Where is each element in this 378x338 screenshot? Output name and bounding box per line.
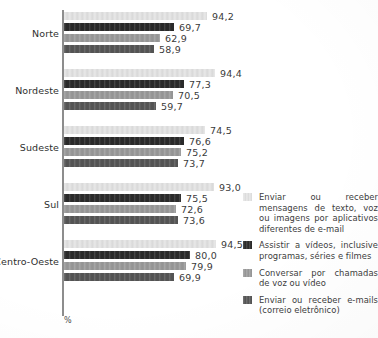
- legend-color-swatch: [243, 241, 252, 249]
- bar-value-label: 94,5: [221, 239, 243, 250]
- bar-value-label: 59,7: [161, 101, 183, 112]
- bar: [64, 183, 214, 191]
- legend-item: Enviar ou receber e-mails (correio eletr…: [243, 295, 378, 316]
- bar: [64, 148, 181, 156]
- bar-value-label: 72,6: [181, 204, 203, 215]
- bar-value-label: 80,0: [195, 250, 217, 261]
- legend-color-swatch: [243, 296, 252, 304]
- bar: [64, 69, 215, 77]
- bar: [64, 91, 173, 99]
- legend-color-swatch: [243, 193, 252, 201]
- bar: [64, 102, 156, 110]
- bar-value-label: 75,2: [186, 147, 208, 158]
- legend-label: Enviar ou receber mensagens de texto, vo…: [259, 192, 378, 234]
- bar: [64, 205, 176, 213]
- bar: [64, 262, 186, 270]
- bar-value-label: 70,5: [178, 90, 200, 101]
- bar: [64, 23, 174, 31]
- bar: [64, 12, 207, 20]
- bar-value-label: 58,9: [159, 44, 181, 55]
- bar: [64, 216, 178, 224]
- bar-value-label: 74,5: [210, 125, 232, 136]
- bar-value-label: 75,5: [186, 193, 208, 204]
- bar-value-label: 94,2: [212, 11, 234, 22]
- bar: [64, 251, 190, 259]
- bar-value-label: 69,9: [179, 272, 201, 283]
- legend-label: Enviar ou receber e-mails (correio eletr…: [259, 295, 378, 316]
- legend-label: Assistir a vídeos, inclusive programas, …: [259, 240, 378, 261]
- axis-unit-label: %: [64, 316, 72, 325]
- bar: [64, 240, 216, 248]
- bar-value-label: 93,0: [219, 182, 241, 193]
- category-label: Nordeste: [15, 85, 59, 96]
- legend-label: Conversar por chamadas de voz ou vídeo: [259, 268, 378, 289]
- category-label: Centro-Oeste: [0, 256, 59, 267]
- bar: [64, 80, 184, 88]
- bar-value-label: 77,3: [189, 79, 211, 90]
- legend-item: Conversar por chamadas de voz ou vídeo: [243, 268, 378, 289]
- bar: [64, 159, 178, 167]
- legend-color-swatch: [243, 269, 252, 277]
- bar: [64, 126, 205, 134]
- bar-value-label: 94,4: [220, 68, 242, 79]
- legend-item: Enviar ou receber mensagens de texto, vo…: [243, 192, 378, 234]
- legend-item: Assistir a vídeos, inclusive programas, …: [243, 240, 378, 261]
- bar-value-label: 79,9: [191, 261, 213, 272]
- bar: [64, 273, 174, 281]
- bar-value-label: 76,6: [189, 136, 211, 147]
- chart-legend: Enviar ou receber mensagens de texto, vo…: [243, 192, 378, 322]
- bar-value-label: 69,7: [179, 22, 201, 33]
- bar-value-label: 73,7: [183, 158, 205, 169]
- bar-value-label: 73,6: [183, 215, 205, 226]
- bar: [64, 194, 181, 202]
- category-label: Sul: [44, 199, 59, 210]
- bar: [64, 45, 154, 53]
- category-label: Norte: [32, 28, 59, 39]
- bar: [64, 137, 184, 145]
- bar: [64, 34, 160, 42]
- bar-value-label: 62,9: [165, 33, 187, 44]
- category-label: Sudeste: [20, 142, 59, 153]
